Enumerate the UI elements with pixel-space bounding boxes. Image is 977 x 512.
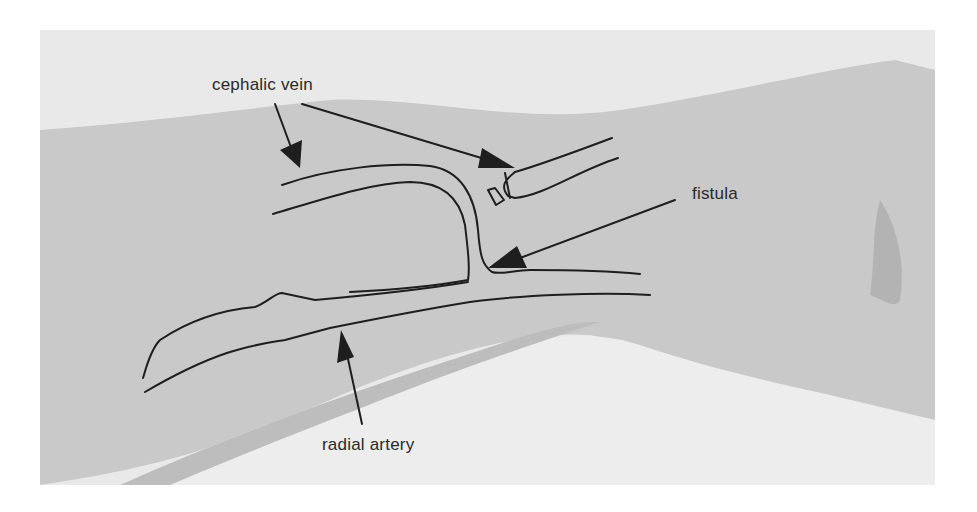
label-radial-artery: radial artery: [322, 435, 414, 455]
fistula-diagram: cephalic vein fistula radial artery: [0, 0, 977, 512]
label-cephalic-vein: cephalic vein: [212, 75, 313, 95]
label-fistula: fistula: [692, 184, 738, 204]
diagram-illustration: [0, 0, 977, 512]
